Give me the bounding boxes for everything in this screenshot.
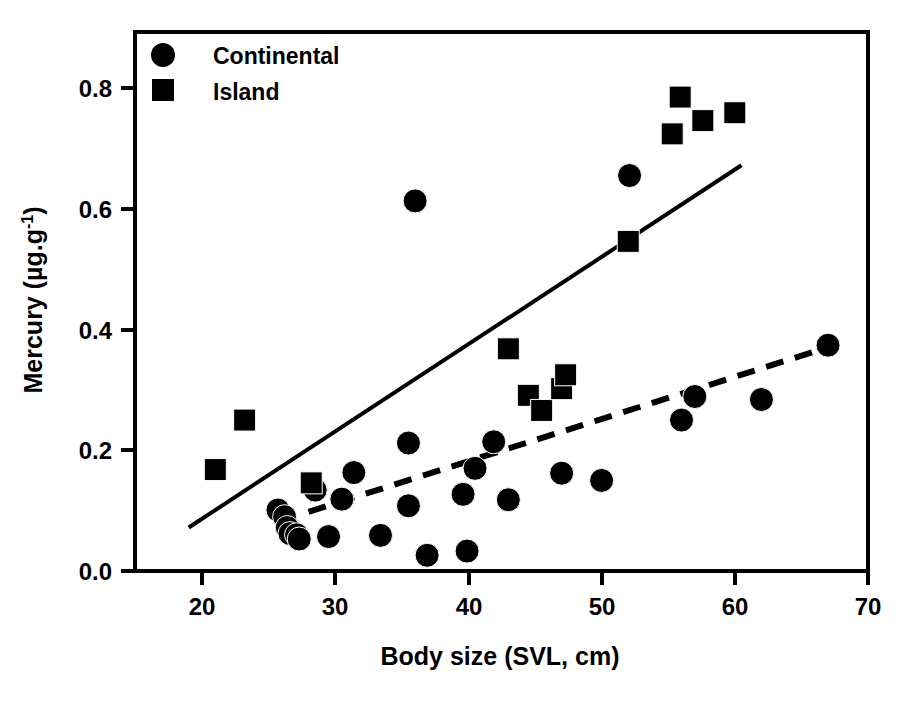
data-point-continental [463, 456, 487, 480]
x-axis-tick-labels: 20 30 40 50 60 70 [189, 593, 882, 620]
y-axis-ticks [121, 88, 135, 571]
svg-text:Mercury (µg.g-1): Mercury (µg.g-1) [19, 207, 47, 394]
data-point-island [661, 123, 683, 145]
y-tick-label-4: 0.8 [79, 75, 112, 102]
x-tick-label-2: 40 [456, 593, 483, 620]
data-point-continental [670, 408, 694, 432]
data-point-continental [590, 468, 614, 492]
x-tick-label-0: 20 [189, 593, 216, 620]
data-point-island [497, 338, 519, 360]
data-point-island [617, 230, 639, 252]
data-point-island [669, 86, 691, 108]
x-axis-title: Body size (SVL, cm) [381, 642, 620, 670]
data-point-continental [482, 430, 506, 454]
data-point-continental [550, 461, 574, 485]
data-point-island [531, 399, 553, 421]
data-point-island [204, 459, 226, 481]
data-point-continental [396, 431, 420, 455]
data-point-island [555, 364, 577, 386]
data-point-continental [455, 539, 479, 563]
legend-label-island: Island [213, 79, 279, 105]
x-tick-label-4: 60 [722, 593, 749, 620]
y-axis-title-prefix: Mercury (µg.g [19, 229, 47, 393]
y-tick-label-0: 0.0 [79, 558, 112, 585]
x-axis-ticks [202, 571, 868, 585]
data-point-continental [415, 543, 439, 567]
y-axis-tick-labels: 0.0 0.2 0.4 0.6 0.8 [79, 75, 113, 585]
x-tick-label-5: 70 [855, 593, 882, 620]
data-point-continental [749, 388, 773, 412]
y-axis-title-exponent: -1 [19, 215, 36, 229]
data-point-island [234, 409, 256, 431]
data-point-island [692, 110, 714, 132]
data-point-continental [317, 525, 341, 549]
y-tick-label-1: 0.2 [79, 437, 112, 464]
data-point-continental [683, 385, 707, 409]
data-point-continental [618, 164, 642, 188]
y-tick-label-2: 0.4 [79, 317, 113, 344]
x-tick-label-1: 30 [322, 593, 349, 620]
data-point-continental [496, 488, 520, 512]
x-tick-label-3: 50 [589, 593, 616, 620]
data-point-continental [342, 461, 366, 485]
legend-marker-circle-icon [151, 43, 175, 67]
data-point-continental [816, 333, 840, 357]
data-point-island [300, 472, 322, 494]
data-point-continental [451, 482, 475, 506]
y-tick-label-3: 0.6 [79, 196, 112, 223]
y-axis-title: Mercury (µg.g-1) [19, 207, 47, 394]
data-point-continental [403, 189, 427, 213]
data-point-continental [330, 487, 354, 511]
data-point-continental [287, 527, 311, 551]
legend-label-continental: Continental [213, 43, 340, 69]
data-point-continental [368, 523, 392, 547]
scatter-plot: 0.0 0.2 0.4 0.6 0.8 20 30 40 50 60 70 Bo… [0, 0, 908, 705]
data-point-continental [396, 494, 420, 518]
y-axis-title-suffix: ) [19, 207, 47, 215]
legend-marker-square-icon [152, 79, 174, 101]
data-point-island [724, 102, 746, 124]
figure-root: 0.0 0.2 0.4 0.6 0.8 20 30 40 50 60 70 Bo… [0, 0, 908, 705]
